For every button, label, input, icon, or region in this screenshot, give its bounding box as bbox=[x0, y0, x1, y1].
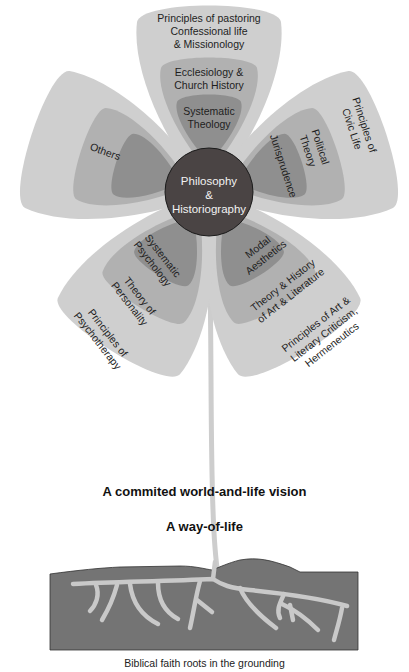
center-line1: Philosophy bbox=[181, 175, 238, 187]
worldview-vision-label: A commited world-and-life vision bbox=[0, 484, 409, 499]
theology-outer-line3: & Missionology bbox=[174, 38, 245, 50]
theology-inner-line2: Theology bbox=[187, 118, 231, 130]
center-line3: Historiography bbox=[172, 203, 246, 215]
theology-outer-line2: Confessional life bbox=[170, 25, 247, 37]
theology-outer-line1: Principles of pastoring bbox=[157, 12, 260, 24]
theology-middle-line2: Church History bbox=[174, 79, 244, 91]
theology-middle-line1: Ecclesiology & bbox=[175, 66, 243, 78]
center-line2: & bbox=[205, 189, 213, 201]
theology-inner-line1: Systematic bbox=[183, 105, 234, 117]
way-of-life-label: A way-of-life bbox=[0, 519, 409, 534]
roots-caption: Biblical faith roots in the grounding bbox=[0, 657, 409, 669]
center-circle: Philosophy & Historiography bbox=[165, 148, 253, 236]
worldview-flower-diagram: Principles of pastoring Confessional lif… bbox=[0, 0, 409, 672]
